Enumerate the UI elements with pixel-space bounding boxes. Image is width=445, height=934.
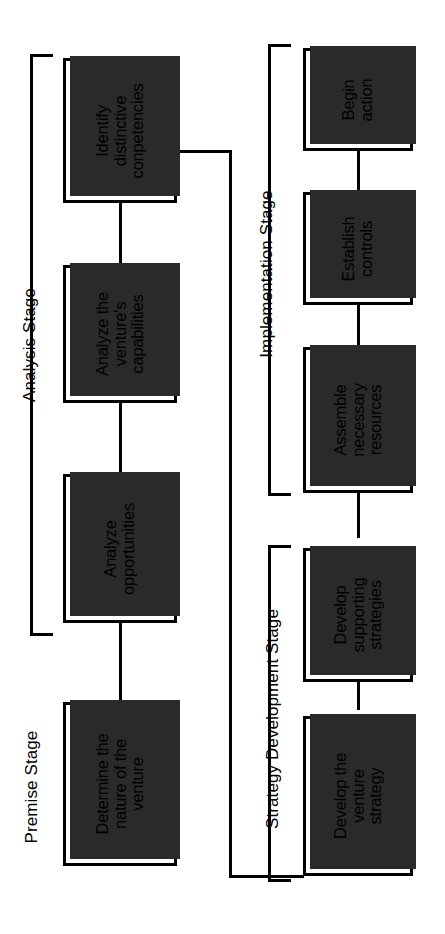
edge-n1-n2 <box>119 620 122 705</box>
bracket-spine <box>30 54 33 636</box>
node-label: Identify distinctive conpetencies <box>94 83 147 178</box>
edge-n3-n4 <box>119 200 122 265</box>
node-label: Analyze the venture's capabilities <box>94 292 147 376</box>
edge-n6-n7 <box>357 490 360 538</box>
node-analyze-opportunities[interactable]: Analyze opportunities <box>63 474 177 623</box>
node-identify-distinctive-competencies[interactable]: Identify distinctive conpetencies <box>63 58 177 203</box>
edge-n2-n3 <box>119 400 122 475</box>
stage-label-premise: Premise Stage <box>22 722 42 852</box>
bracket-arm-bottom <box>268 879 291 882</box>
bracket-analysis-stage <box>30 54 56 636</box>
node-label: Determine the nature of the venture <box>94 733 147 834</box>
node-analyze-venture-capabilities[interactable]: Analyze the venture's capabilities <box>63 265 177 403</box>
edge-n7-n8 <box>357 302 360 350</box>
edge-n4-n5-segment-vertical <box>229 150 232 878</box>
node-determine-nature-of-venture[interactable]: Determine the nature of the venture <box>63 702 177 866</box>
bracket-spine <box>268 44 271 496</box>
node-begin-action[interactable]: Begin action <box>303 48 413 151</box>
edge-n8-n9 <box>357 148 360 194</box>
node-label: Develop supporting strategies <box>332 577 385 652</box>
node-assemble-necessary-resources[interactable]: Assemble necessary resources <box>303 347 413 493</box>
node-label: Develop the venture strategy <box>332 753 385 839</box>
node-establish-controls[interactable]: Establish controls <box>303 192 413 305</box>
bracket-arm-top <box>30 54 53 57</box>
bracket-arm-top <box>268 44 291 47</box>
bracket-arm-bottom <box>268 493 291 496</box>
flowchart-canvas: Analysis Stage Premise Stage Identify di… <box>0 0 445 934</box>
node-develop-supporting-strategies[interactable]: Develop supporting strategies <box>303 548 413 682</box>
node-label: Analyze opportunities <box>102 503 137 595</box>
node-label: Assemble necessary resources <box>332 383 385 456</box>
node-label: Begin action <box>340 78 375 121</box>
bracket-arm-bottom <box>30 633 53 636</box>
bracket-arm-top <box>268 545 291 548</box>
edge-n4-n5-segment-horizontal-top <box>177 150 232 153</box>
node-label: Establish controls <box>340 216 375 281</box>
bracket-implementation-stage <box>268 44 294 496</box>
node-develop-venture-strategy[interactable]: Develop the venture strategy <box>303 716 413 876</box>
bracket-strategy-development-stage <box>268 545 294 882</box>
bracket-spine <box>268 545 271 882</box>
